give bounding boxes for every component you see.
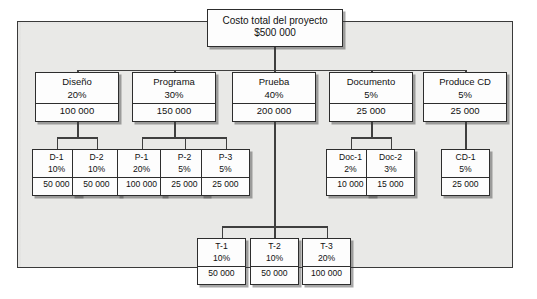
node-prueba-amount: 200 000: [233, 103, 315, 117]
node-t2-percent: 10%: [251, 252, 298, 264]
node-d2-label: D-2: [73, 153, 120, 163]
node-prueba-label: Prueba: [233, 77, 315, 88]
connector-prueba-drop: [274, 122, 276, 227]
node-root-label: Costo total del proyecto: [208, 15, 342, 26]
node-d2-percent: 10%: [73, 163, 120, 175]
node-t2-amount: 50 000: [251, 266, 298, 279]
node-prueba-percent: 40%: [233, 88, 315, 101]
connector-drop-p2: [185, 137, 187, 149]
connector-drop-p3: [226, 137, 228, 149]
node-t1-percent: 10%: [198, 252, 245, 264]
node-cd1-percent: 5%: [442, 163, 489, 175]
frame-texture: [18, 22, 512, 267]
node-diseno[interactable]: Diseño 20% 100 000: [35, 72, 119, 122]
node-diseno-amount: 100 000: [36, 103, 118, 117]
node-doc2[interactable]: Doc-2 3% 15 000: [366, 149, 415, 196]
node-doc2-percent: 3%: [367, 163, 414, 175]
node-p3-amount: 25 000: [202, 177, 249, 190]
node-producecd-percent: 5%: [424, 88, 506, 101]
connector-drop-d1: [57, 137, 59, 149]
connector-drop-t2: [274, 226, 276, 238]
node-producecd[interactable]: Produce CD 5% 25 000: [423, 72, 507, 122]
diagram-canvas: Costo total del proyecto $500 000 Diseño…: [0, 0, 537, 299]
connector-drop-doc1: [351, 137, 353, 149]
node-d2[interactable]: D-2 10% 50 000: [72, 149, 121, 196]
node-cd1[interactable]: CD-1 5% 25 000: [441, 149, 490, 196]
connector-level2-bus: [78, 70, 466, 72]
diagram-frame: [17, 21, 513, 268]
node-doc2-amount: 15 000: [367, 177, 414, 190]
node-documento[interactable]: Documento 5% 25 000: [329, 72, 413, 122]
node-documento-label: Documento: [330, 77, 412, 88]
connector-drop-d2: [97, 137, 99, 149]
connector-drop-p1: [142, 137, 144, 149]
node-t2-label: T-2: [251, 242, 298, 252]
connector-drop-t3: [327, 226, 329, 238]
connector-documento-drop: [371, 122, 373, 138]
node-cd1-label: CD-1: [442, 153, 489, 163]
node-diseno-label: Diseño: [36, 77, 118, 88]
node-documento-percent: 5%: [330, 88, 412, 101]
node-programa-label: Programa: [133, 77, 215, 88]
node-p1-percent: 20%: [118, 163, 165, 175]
node-t1-label: T-1: [198, 242, 245, 252]
node-root[interactable]: Costo total del proyecto $500 000: [207, 9, 343, 47]
node-programa[interactable]: Programa 30% 150 000: [132, 72, 216, 122]
node-p1[interactable]: P-1 20% 100 000: [117, 149, 166, 196]
node-t1[interactable]: T-1 10% 50 000: [197, 238, 246, 285]
node-diseno-percent: 20%: [36, 88, 118, 101]
connector-diseno-drop: [77, 122, 79, 138]
node-p1-label: P-1: [118, 153, 165, 163]
connector-producecd-drop: [465, 122, 467, 149]
node-t1-amount: 50 000: [198, 266, 245, 279]
node-doc2-label: Doc-2: [367, 153, 414, 163]
connector-drop-t1: [222, 226, 224, 238]
node-producecd-label: Produce CD: [424, 77, 506, 88]
connector-programa-drop: [174, 122, 176, 138]
node-t3-amount: 100 000: [303, 266, 350, 279]
node-p3[interactable]: P-3 5% 25 000: [201, 149, 250, 196]
node-programa-percent: 30%: [133, 88, 215, 101]
node-p1-amount: 100 000: [118, 177, 165, 190]
node-t2[interactable]: T-2 10% 50 000: [250, 238, 299, 285]
node-p3-percent: 5%: [202, 163, 249, 175]
node-programa-amount: 150 000: [133, 103, 215, 117]
connector-root-drop: [274, 47, 276, 70]
node-prueba[interactable]: Prueba 40% 200 000: [232, 72, 316, 122]
node-documento-amount: 25 000: [330, 103, 412, 117]
node-p3-label: P-3: [202, 153, 249, 163]
node-d2-amount: 50 000: [73, 177, 120, 190]
node-root-amount: $500 000: [208, 26, 342, 38]
node-t3-percent: 20%: [303, 252, 350, 264]
connector-documento-bus: [351, 137, 392, 139]
node-t3[interactable]: T-3 20% 100 000: [302, 238, 351, 285]
node-producecd-amount: 25 000: [424, 103, 506, 117]
connector-diseno-bus: [57, 137, 98, 139]
node-t3-label: T-3: [303, 242, 350, 252]
connector-drop-doc2: [391, 137, 393, 149]
node-cd1-amount: 25 000: [442, 177, 489, 190]
